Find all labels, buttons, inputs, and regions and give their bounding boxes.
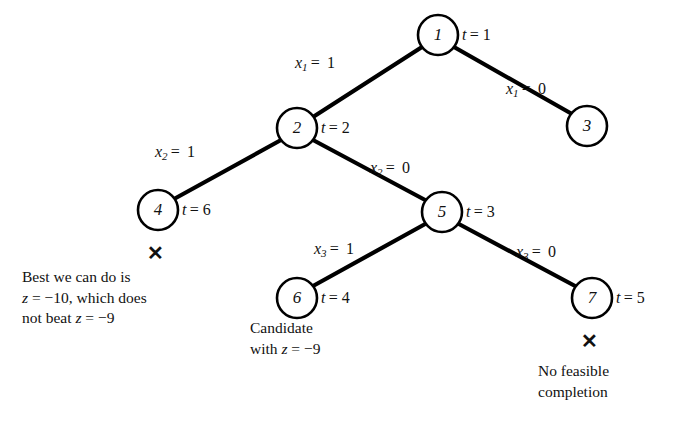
node-number-label-2: 2 [277, 108, 317, 148]
node-t-label-1: t = 1 [462, 26, 491, 44]
edge-label-1-2: x1 = 1 [295, 54, 335, 73]
variable-symbol: z [281, 340, 287, 357]
node-t-label-5: t = 3 [466, 203, 495, 221]
variable-symbol-t: t [321, 119, 325, 136]
node-7-note-line-1: No feasible [538, 361, 609, 382]
variable-symbol-t: t [321, 289, 325, 306]
node-number-label-5: 5 [422, 192, 462, 232]
node-4-note: Best we can do isz = −10, which doesnot … [22, 267, 147, 329]
node-number-label-7: 7 [572, 278, 612, 318]
variable-subscript: 3 [321, 247, 327, 259]
node-4-note-line-3: not beat z = −9 [22, 308, 147, 329]
variable-symbol-t: t [182, 201, 186, 218]
node-6-note-line-2: with z = −9 [250, 339, 320, 360]
node-number-label-6: 6 [277, 278, 317, 318]
variable-symbol-t: t [616, 289, 620, 306]
pruned-x-icon-node-4: ✕ [147, 243, 164, 263]
node-t-label-2: t = 2 [321, 119, 350, 137]
variable-subscript: 1 [302, 61, 308, 73]
node-number-label-3: 3 [567, 106, 607, 146]
variable-subscript: 1 [513, 87, 519, 99]
variable-subscript: 2 [377, 166, 383, 178]
node-7-note-line-2: completion [538, 382, 609, 403]
node-4-note-line-2: z = −10, which does [22, 288, 147, 309]
pruned-x-icon-node-7: ✕ [581, 331, 598, 351]
node-7-note: No feasiblecompletion [538, 361, 609, 402]
edge-label-5-6: x3 = 1 [314, 240, 354, 259]
variable-subscript: 2 [162, 150, 168, 162]
node-6-note: Candidatewith z = −9 [250, 318, 320, 359]
node-t-label-7: t = 5 [616, 289, 645, 307]
node-6-note-line-1: Candidate [250, 318, 320, 339]
branch-and-bound-figure: 1234567 t = 1t = 2t = 6t = 3t = 4t = 5 x… [0, 0, 691, 422]
node-number-label-4: 4 [138, 190, 178, 230]
node-4-note-line-1: Best we can do is [22, 267, 147, 288]
edge-label-2-4: x2 = 1 [155, 143, 195, 162]
edge-label-2-5: x2 = 0 [370, 159, 410, 178]
node-number-label-1: 1 [418, 15, 458, 55]
node-t-label-4: t = 6 [182, 201, 211, 219]
edge-label-1-3: x1 = 0 [506, 80, 546, 99]
variable-symbol-t: t [466, 203, 470, 220]
tree-graphics [0, 0, 691, 422]
variable-symbol: z [22, 289, 28, 306]
variable-symbol-t: t [462, 26, 466, 43]
node-t-label-6: t = 4 [321, 289, 350, 307]
variable-subscript: 3 [523, 250, 529, 262]
variable-symbol: z [75, 309, 81, 326]
edge-label-5-7: x3 = 0 [516, 243, 556, 262]
